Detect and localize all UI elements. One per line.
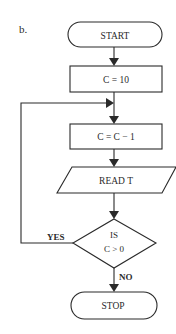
- arrow-read-to-decision: [109, 193, 119, 219]
- read-label: READ T: [99, 176, 133, 186]
- decision-diamond: IS C > 0: [73, 219, 156, 268]
- arrow-decision-to-stop: [109, 268, 119, 292]
- decrement-process-box: C = C − 1: [70, 124, 162, 149]
- arrow-decrement-to-read: [109, 149, 119, 167]
- decision-line1: IS: [110, 230, 118, 240]
- stop-label: STOP: [101, 301, 124, 311]
- init-label: C = 10: [103, 75, 129, 85]
- read-io-parallelogram: READ T: [57, 167, 176, 193]
- arrow-start-to-init: [109, 47, 119, 66]
- stop-terminal: STOP: [71, 292, 157, 319]
- flowchart-diagram: b. START C = 10 C = C − 1 READ T: [0, 0, 176, 334]
- init-process-box: C = 10: [70, 66, 162, 92]
- start-label: START: [101, 31, 130, 41]
- decrement-label: C = C − 1: [97, 132, 135, 142]
- start-terminal: START: [68, 22, 162, 47]
- no-label: NO: [119, 272, 133, 282]
- decision-line2: C > 0: [104, 244, 125, 254]
- figure-label: b.: [19, 23, 28, 35]
- arrow-init-to-decrement: [109, 92, 119, 124]
- yes-label: YES: [47, 232, 65, 242]
